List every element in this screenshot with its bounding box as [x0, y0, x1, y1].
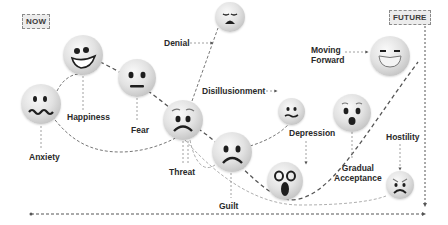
- future-tag: FUTURE: [389, 10, 431, 25]
- gradual-acceptance-emoji-icon: [333, 94, 371, 132]
- label-depression: Depression: [289, 128, 335, 138]
- label-hostility: Hostility: [386, 132, 420, 142]
- denial-emoji-icon: [215, 2, 245, 32]
- happiness-emoji-icon: [63, 35, 103, 75]
- label-happiness: Happiness: [67, 112, 110, 122]
- fear-emoji-icon: [118, 59, 156, 97]
- moving-forward-emoji-icon: [370, 36, 410, 76]
- hostility-emoji-icon: [386, 171, 414, 199]
- label-guilt: Guilt: [219, 201, 238, 211]
- label-anxiety: Anxiety: [29, 152, 60, 162]
- label-gradual-acceptance: Gradual Acceptance: [334, 163, 382, 183]
- label-gradual-acceptance-line2: Acceptance: [334, 173, 382, 183]
- label-gradual-acceptance-line1: Gradual: [334, 163, 382, 173]
- threat-emoji-icon: [163, 100, 203, 140]
- disillusionment-emoji-icon: [278, 98, 305, 125]
- label-threat: Threat: [169, 167, 195, 177]
- curve-guilt-disillusionment: [250, 122, 290, 146]
- anxiety-emoji-icon: [21, 84, 61, 124]
- label-denial: Denial: [164, 38, 190, 48]
- now-tag: NOW: [22, 14, 50, 29]
- depression-emoji-icon: [267, 162, 303, 200]
- label-fear: Fear: [131, 125, 149, 135]
- label-moving-forward-line1: Moving: [311, 45, 345, 55]
- curve-anxiety-happiness: [57, 74, 85, 91]
- label-disillusionment: Disillusionment: [202, 86, 265, 96]
- label-moving-forward-line2: Forward: [311, 55, 345, 65]
- guilt-emoji-icon: [212, 132, 252, 172]
- label-moving-forward: Moving Forward: [311, 45, 345, 65]
